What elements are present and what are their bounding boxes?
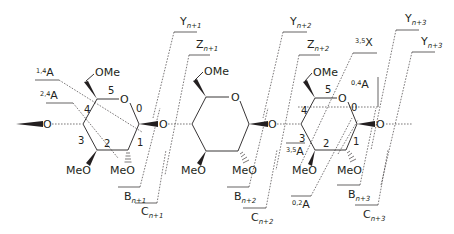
wedge-bond-icon [249, 121, 268, 127]
residue-2-meo-3: MeO [181, 164, 206, 177]
label-2-4-A: 2,4A [40, 89, 58, 102]
atom-number-4: 4 [301, 105, 307, 116]
residue-1-meo-2: MeO [110, 164, 135, 177]
wedge-bond-icon [16, 121, 43, 127]
cleavage-c-n2: Cn+2 [243, 150, 277, 226]
label-z-n3: Yn+3 [420, 35, 443, 50]
atom-number-4: 4 [84, 104, 90, 115]
atom-number-0: 0 [136, 103, 142, 114]
label-0-4-A: 0,4A [351, 78, 369, 91]
atom-number-3: 3 [78, 135, 84, 146]
residue-1-ring: OMe O 0 1 2 3 4 5 MeO MeO O O [16, 66, 168, 177]
atom-number-5: 5 [108, 85, 114, 96]
label-y-n1: Yn+1 [179, 15, 202, 30]
residue-1-meo-3: MeO [66, 164, 91, 177]
residue-1-ome-label: OMe [95, 66, 120, 79]
fragmentation-diagram: OMe O 0 1 2 3 4 5 MeO MeO O O [0, 0, 454, 234]
label-0-2-A: 0,2A [292, 198, 310, 211]
residue-2-ome-label: OMe [204, 65, 229, 78]
label-c-n1: Cn+1 [141, 205, 163, 220]
cleavage-z-n1: Zn+1 [165, 38, 218, 175]
hashed-bond-icon [347, 151, 356, 162]
atom-number-1: 1 [353, 136, 359, 147]
label-3-5-A: 3,5A [286, 145, 304, 158]
cleavage-c-n3: Cn+3 [355, 150, 388, 223]
wedge-bond-icon [303, 80, 315, 98]
cleavage-y-n2: Yn+2 [263, 15, 312, 118]
residue-3-ome-label: OMe [313, 66, 338, 79]
residue-3-ring: OMe O 0 1 2 3 4 5 MeO MeO O [277, 66, 412, 177]
atom-number-1: 1 [137, 137, 143, 148]
label-c-n2: Cn+2 [251, 211, 274, 226]
label-1-4-A: 1,4A [36, 66, 54, 79]
hashed-bond-icon [240, 152, 249, 163]
residue-3-meo-3: MeO [292, 164, 317, 177]
label-z-n1: Zn+1 [196, 38, 218, 53]
label-c-n3: Cn+3 [363, 208, 385, 223]
hashed-bond-icon [125, 153, 132, 162]
label-b-n3: Bn+3 [348, 188, 370, 203]
atom-number-0: 0 [351, 102, 357, 113]
wedge-bond-icon [84, 81, 97, 99]
cross-ring-cleavage-3-5-A: 3,5A [286, 143, 305, 158]
glycosidic-oxygen-2: O [268, 118, 277, 131]
wedge-bond-icon [193, 79, 206, 97]
residue-2-ring: OMe O MeO MeO O [168, 65, 277, 177]
residue-2-meo-2: MeO [232, 164, 257, 177]
label-y-n2: Yn+2 [289, 15, 312, 30]
atom-number-5: 5 [325, 84, 331, 95]
residue-3-meo-2: MeO [337, 164, 362, 177]
atom-number-3: 3 [299, 133, 305, 144]
cleavage-y-n1: Yn+1 [153, 15, 202, 118]
glycosidic-oxygen-1: O [159, 118, 168, 131]
label-3-5-X: 3,5X [355, 36, 373, 49]
glycosidic-oxygen-3: O [376, 118, 385, 131]
cleavage-c-n1: Cn+1 [135, 150, 166, 220]
label-z-n2: Zn+2 [307, 38, 330, 53]
residue-3-ring-oxygen: O [338, 92, 347, 105]
glycosidic-oxygen-left: O [43, 118, 52, 131]
label-y-n3: Yn+3 [404, 12, 427, 27]
residue-1-ring-oxygen: O [120, 93, 129, 106]
atom-number-2: 2 [323, 138, 329, 149]
label-b-n2: Bn+2 [234, 190, 257, 205]
wedge-bond-icon [139, 121, 158, 127]
residue-2-ring-oxygen: O [231, 91, 240, 104]
